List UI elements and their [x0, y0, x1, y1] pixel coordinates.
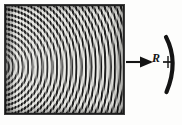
- figure-root: R: [0, 0, 182, 125]
- radius-label: R: [152, 52, 160, 64]
- fringe-pattern-svg: [5, 5, 124, 114]
- interference-photograph: [5, 5, 124, 114]
- concave-mirror-arc: [166, 37, 173, 92]
- circular-fringes: [5, 5, 124, 114]
